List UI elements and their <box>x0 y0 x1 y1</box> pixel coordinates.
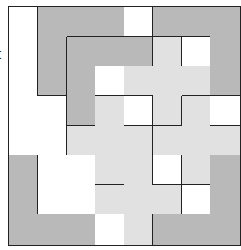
grid-cell-r1-c4 <box>124 37 153 67</box>
grid-cell-r3-c4 <box>124 96 153 126</box>
grid-cell-r7-c1 <box>38 214 67 244</box>
grid-cell-r6-c2 <box>67 185 96 215</box>
grid-cell-r2-c7 <box>210 66 239 96</box>
grid-cell-r4-c4 <box>124 126 153 156</box>
grid-cell-r1-c7 <box>210 37 239 67</box>
grid-cell-r7-c3 <box>95 214 124 244</box>
grid-cell-r7-c2 <box>67 214 96 244</box>
grid-cell-r5-c7 <box>210 155 239 185</box>
grid-cell-r3-c2 <box>67 96 96 126</box>
grid-cell-r4-c2 <box>67 126 96 156</box>
grid-cell-r1-c5 <box>153 37 182 67</box>
grid-cell-r0-c0 <box>9 7 38 37</box>
grid-cell-r5-c3 <box>95 155 124 185</box>
grid-cell-r0-c3 <box>95 7 124 37</box>
grid-cell-r4-c3 <box>95 126 124 156</box>
grid-cell-r6-c1 <box>38 185 67 215</box>
tiling-puzzle-board <box>8 6 241 246</box>
grid-cell-r6-c0 <box>9 185 38 215</box>
grid-cell-r2-c0 <box>9 66 38 96</box>
grid-cell-r2-c3 <box>95 66 124 96</box>
grid-cell-r4-c0 <box>9 126 38 156</box>
grid-cell-r6-c5 <box>153 185 182 215</box>
grid-cell-r1-c2 <box>67 37 96 67</box>
grid-cell-r7-c7 <box>210 214 239 244</box>
grid-cell-r4-c5 <box>153 126 182 156</box>
grid-cell-r0-c6 <box>182 7 211 37</box>
grid-cell-r1-c1 <box>38 37 67 67</box>
grid-cell-r0-c5 <box>153 7 182 37</box>
grid-cell-r2-c4 <box>124 66 153 96</box>
grid-cell-r3-c5 <box>153 96 182 126</box>
grid-cell-r6-c6 <box>182 185 211 215</box>
cropped-text-fragment: t <box>0 46 1 61</box>
grid-cell-r5-c5 <box>153 155 182 185</box>
grid-cell-r7-c4 <box>124 214 153 244</box>
grid-cell-r5-c4 <box>124 155 153 185</box>
grid-cell-r0-c4 <box>124 7 153 37</box>
grid-cell-r2-c6 <box>182 66 211 96</box>
grid-cell-r5-c0 <box>9 155 38 185</box>
grid-cell-r3-c6 <box>182 96 211 126</box>
grid-cell-r7-c5 <box>153 214 182 244</box>
grid-cell-r1-c0 <box>9 37 38 67</box>
grid-cell-r4-c1 <box>38 126 67 156</box>
grid-cell-r4-c7 <box>210 126 239 156</box>
grid-cell-r6-c4 <box>124 185 153 215</box>
grid-cell-r1-c6 <box>182 37 211 67</box>
grid-cell-r5-c6 <box>182 155 211 185</box>
grid-cell-r6-c3 <box>95 185 124 215</box>
grid-cell-r7-c6 <box>182 214 211 244</box>
grid-cell-r0-c2 <box>67 7 96 37</box>
grid-cell-r3-c0 <box>9 96 38 126</box>
grid-cell-r6-c7 <box>210 185 239 215</box>
grid-cell-r2-c2 <box>67 66 96 96</box>
grid-cell-r5-c1 <box>38 155 67 185</box>
grid-cell-r5-c2 <box>67 155 96 185</box>
grid-cell-r1-c3 <box>95 37 124 67</box>
grid-cell-r2-c1 <box>38 66 67 96</box>
grid-cell-r3-c7 <box>210 96 239 126</box>
grid-cell-r0-c1 <box>38 7 67 37</box>
grid-cell-r3-c1 <box>38 96 67 126</box>
grid-cell-r7-c0 <box>9 214 38 244</box>
grid-cell-r4-c6 <box>182 126 211 156</box>
grid-cell-r3-c3 <box>95 96 124 126</box>
grid-cell-r0-c7 <box>210 7 239 37</box>
grid-cell-r2-c5 <box>153 66 182 96</box>
